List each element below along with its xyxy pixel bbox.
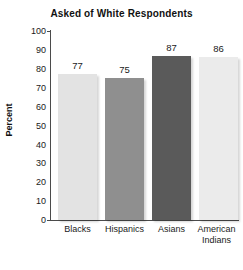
y-tick-label-80: 80 [12,65,46,74]
bar-value-label-american-indians: 86 [199,44,238,54]
y-tick-label-60: 60 [12,103,46,112]
y-tick-label-0: 0 [12,216,46,225]
y-tick-label-50: 50 [12,122,46,131]
x-axis-line [50,220,239,221]
y-tick-label-40: 40 [12,141,46,150]
bar-value-label-asians: 87 [152,43,191,53]
bar-american-indians[interactable] [199,57,238,220]
x-tick-label-blacks: Blacks [52,224,103,235]
y-axis-tick-labels: 100 90 80 70 60 50 40 30 20 10 0 [12,0,46,270]
y-tick-label-100: 100 [12,27,46,36]
x-tick-label-american-indians: American Indians [190,224,243,246]
y-tick-label-90: 90 [12,46,46,55]
plot-area: 77 75 87 86 [50,31,238,220]
bar-value-label-blacks: 77 [58,61,97,71]
bar-blacks[interactable] [58,74,97,220]
y-tick-label-70: 70 [12,84,46,93]
x-tick-label-american-indians-line1: American [190,224,243,235]
bar-hispanics[interactable] [105,78,144,220]
x-tick-label-hispanics: Hispanics [99,224,150,235]
bar-value-label-hispanics: 75 [105,65,144,75]
y-tick-label-20: 20 [12,178,46,187]
x-tick-label-hispanics-line1: Hispanics [99,224,150,235]
bar-chart: Asked of White Respondents 100 90 80 70 … [0,0,243,270]
y-axis-title: Percent [4,92,14,148]
y-tick-label-10: 10 [12,197,46,206]
bar-asians[interactable] [152,56,191,220]
x-tick-label-american-indians-line2: Indians [190,235,243,246]
x-tick-label-blacks-line1: Blacks [52,224,103,235]
y-tick-label-30: 30 [12,159,46,168]
